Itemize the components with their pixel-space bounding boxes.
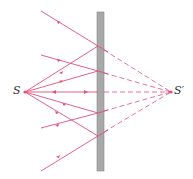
virtual-rays — [104, 50, 171, 132]
image-label: S′ — [174, 84, 184, 97]
source-point — [23, 90, 26, 93]
image-point — [169, 90, 172, 93]
mirror-diagram: S S′ — [0, 0, 193, 179]
arrow-icons — [52, 21, 88, 158]
source-label: S — [13, 84, 21, 97]
diagram-canvas — [0, 0, 193, 179]
mirror — [97, 12, 104, 171]
rays — [25, 11, 108, 171]
